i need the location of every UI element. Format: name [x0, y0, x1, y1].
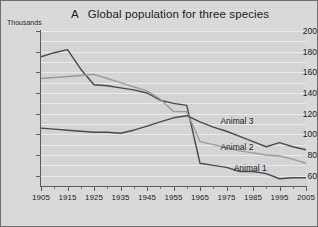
y-tick-label: 60: [283, 171, 317, 181]
chart-figure: Thousands AGlobal population for three s…: [0, 0, 318, 227]
x-tick-label: 1945: [132, 193, 162, 202]
chart-title: AGlobal population for three species: [71, 8, 269, 20]
x-tick-minor: [187, 187, 188, 189]
series-line-2: [41, 74, 306, 163]
x-tick-minor: [134, 187, 135, 189]
series-label-3: Animal 1: [234, 163, 267, 173]
y-tick: [36, 93, 41, 94]
x-tick-minor: [54, 187, 55, 189]
y-tick: [36, 134, 41, 135]
x-tick-minor: [293, 187, 294, 189]
y-tick-label: 140: [283, 88, 317, 98]
x-tick: [174, 187, 175, 191]
x-tick: [68, 187, 69, 191]
x-tick: [280, 187, 281, 191]
y-tick-label: 200: [283, 26, 317, 36]
x-tick: [200, 187, 201, 191]
x-tick: [41, 187, 42, 191]
series-label-2: Animal 2: [220, 142, 253, 152]
x-tick: [306, 187, 307, 191]
series-line-1: [41, 50, 306, 179]
title-text: Global population for three species: [88, 8, 269, 20]
y-tick-label: 80: [283, 150, 317, 160]
x-tick-label: 1995: [265, 193, 295, 202]
x-tick-label: 1925: [79, 193, 109, 202]
y-tick-label: 120: [283, 109, 317, 119]
y-tick-label: 100: [283, 129, 317, 139]
x-tick-label: 1935: [106, 193, 136, 202]
x-tick-label: 1965: [185, 193, 215, 202]
x-tick: [121, 187, 122, 191]
x-tick-label: 1985: [238, 193, 268, 202]
series-label-1: Animal 3: [220, 116, 253, 126]
x-tick-label: 2005: [291, 193, 318, 202]
panel-label: A: [71, 8, 79, 20]
x-tick: [253, 187, 254, 191]
x-tick-minor: [107, 187, 108, 189]
y-tick: [36, 114, 41, 115]
y-axis-line: [40, 30, 41, 187]
y-tick-label: 180: [283, 47, 317, 57]
x-tick-label: 1975: [212, 193, 242, 202]
y-tick-label: 160: [283, 67, 317, 77]
x-tick-minor: [160, 187, 161, 189]
x-tick-minor: [213, 187, 214, 189]
y-tick: [36, 176, 41, 177]
x-tick: [147, 187, 148, 191]
y-tick: [36, 155, 41, 156]
x-tick-minor: [81, 187, 82, 189]
y-tick: [36, 31, 41, 32]
x-tick-minor: [240, 187, 241, 189]
y-tick: [36, 72, 41, 73]
x-tick: [94, 187, 95, 191]
x-tick-label: 1955: [159, 193, 189, 202]
x-tick-label: 1905: [26, 193, 56, 202]
y-axis-unit-label: Thousands: [7, 19, 42, 26]
y-tick: [36, 52, 41, 53]
x-tick-minor: [266, 187, 267, 189]
x-tick-label: 1915: [53, 193, 83, 202]
series-line-3: [41, 116, 306, 150]
x-tick: [227, 187, 228, 191]
